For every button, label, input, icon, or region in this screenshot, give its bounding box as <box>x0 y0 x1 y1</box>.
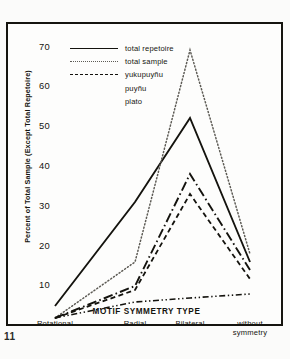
plot-area: Percent of Total Sample (Except Total Re… <box>8 24 285 328</box>
x-tick-bilateral: Bilateral <box>159 320 221 329</box>
legend-label-yukupuynu: yukupuyñu <box>125 70 163 79</box>
legend-label-puynu: puyñu <box>125 84 146 93</box>
legend-label-plato: plato <box>125 97 142 106</box>
x-tick-without-symmetry: withoutsymmetry <box>222 320 278 337</box>
x-axis-label: MOTIF SYMMETRY TYPE <box>8 307 285 316</box>
series-line-yukupuynu <box>55 194 250 318</box>
legend-label-total-sample: total sample <box>125 57 168 66</box>
legend-key-solid-line-icon <box>70 44 118 53</box>
series-line-total-repetoire <box>55 118 250 306</box>
x-tick-without-symmetry-line2: symmetry <box>233 328 268 337</box>
legend-item-total-sample[interactable]: total sample <box>70 55 174 68</box>
x-tick-rotational: Rotational <box>22 320 88 329</box>
legend-item-puynu[interactable]: puyñu <box>70 82 174 95</box>
legend-item-total-repetoire[interactable]: total repetoire <box>70 42 174 55</box>
legend-key-dash-dot-dot-line-icon <box>70 97 118 106</box>
legend-item-yukupuynu[interactable]: yukupuyñu <box>70 68 174 81</box>
chart-frame: Percent of Total Sample (Except Total Re… <box>6 22 283 326</box>
legend: total repetoire total sample yukupuyñu p… <box>70 42 174 108</box>
figure-caption: 11 <box>4 331 16 343</box>
legend-key-dash-dot-line-icon <box>70 84 118 93</box>
legend-item-plato[interactable]: plato <box>70 95 174 108</box>
figure-panel: Percent of Total Sample (Except Total Re… <box>0 0 290 359</box>
legend-label-total-repetoire: total repetoire <box>125 44 174 53</box>
legend-key-dotted-line-icon <box>70 57 118 66</box>
legend-key-dashed-line-icon <box>70 70 118 79</box>
x-tick-radial: Radial <box>104 320 166 329</box>
